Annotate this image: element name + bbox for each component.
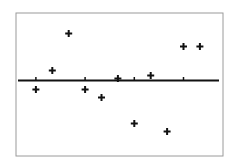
residual-plot <box>0 0 233 164</box>
plot-frame <box>16 13 223 156</box>
